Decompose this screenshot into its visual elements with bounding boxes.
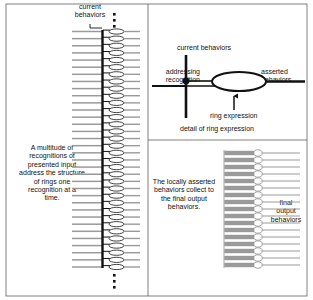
output-ring-row bbox=[224, 157, 300, 163]
left-ring-row bbox=[72, 86, 140, 91]
output-ring-row bbox=[224, 206, 300, 212]
left-ring-row bbox=[72, 179, 140, 184]
left-column-top-ellipsis-icon bbox=[113, 13, 116, 28]
left-column-bottom-ellipsis-icon bbox=[113, 274, 116, 289]
left-ring-row bbox=[72, 150, 140, 155]
output-ring-row bbox=[224, 213, 300, 219]
output-ring-row bbox=[224, 255, 300, 261]
output-ring-row bbox=[224, 234, 300, 240]
left-ring-row bbox=[72, 29, 140, 34]
left-ring-row bbox=[72, 57, 140, 62]
left-ring-row bbox=[72, 264, 140, 269]
left-ring-row bbox=[72, 72, 140, 77]
current-behaviors-leader-line bbox=[90, 24, 102, 28]
output-ring-row bbox=[224, 227, 300, 233]
left-ring-row bbox=[72, 164, 140, 169]
output-ring-row bbox=[224, 262, 300, 268]
left-ring-row bbox=[72, 107, 140, 112]
output-ring-row-group bbox=[224, 150, 300, 268]
left-ring-row bbox=[72, 236, 140, 241]
left-ring-row bbox=[72, 143, 140, 148]
left-ring-row bbox=[72, 43, 140, 48]
output-ring-row bbox=[224, 220, 300, 226]
left-ring-row bbox=[72, 79, 140, 84]
left-ring-row bbox=[72, 250, 140, 255]
left-ring-row bbox=[72, 214, 140, 219]
left-ring-row bbox=[72, 122, 140, 127]
output-ring-row bbox=[224, 171, 300, 177]
left-ring-row bbox=[72, 229, 140, 234]
left-ring-row bbox=[72, 100, 140, 105]
left-ring-row bbox=[72, 222, 140, 227]
output-ring-row bbox=[224, 199, 300, 205]
left-ring-row bbox=[72, 136, 140, 141]
left-ring-row bbox=[72, 50, 140, 55]
output-ring-row bbox=[224, 185, 300, 191]
output-ring-row bbox=[224, 241, 300, 247]
output-ring-row bbox=[224, 248, 300, 254]
left-ring-row bbox=[72, 207, 140, 212]
diagram-vectors bbox=[0, 0, 313, 300]
left-ring-row bbox=[72, 186, 140, 191]
left-ring-row bbox=[72, 93, 140, 98]
output-ring-row bbox=[224, 192, 300, 198]
left-ring-row bbox=[72, 129, 140, 134]
left-ring-row bbox=[72, 36, 140, 41]
left-ring-row bbox=[72, 157, 140, 162]
left-ring-row bbox=[72, 193, 140, 198]
left-ring-row bbox=[72, 115, 140, 120]
left-ring-row bbox=[72, 200, 140, 205]
left-ring-row bbox=[72, 257, 140, 262]
detail-ring-ellipse bbox=[212, 72, 266, 91]
left-ring-row bbox=[72, 65, 140, 70]
output-ring-row bbox=[224, 178, 300, 184]
output-ring-row bbox=[224, 150, 300, 156]
output-ring-row bbox=[224, 164, 300, 170]
left-ring-row bbox=[72, 172, 140, 177]
left-ring-row-group bbox=[72, 29, 140, 270]
left-ring-row bbox=[72, 243, 140, 248]
figure-canvas: current behaviors A multitude of recogni… bbox=[0, 0, 313, 300]
